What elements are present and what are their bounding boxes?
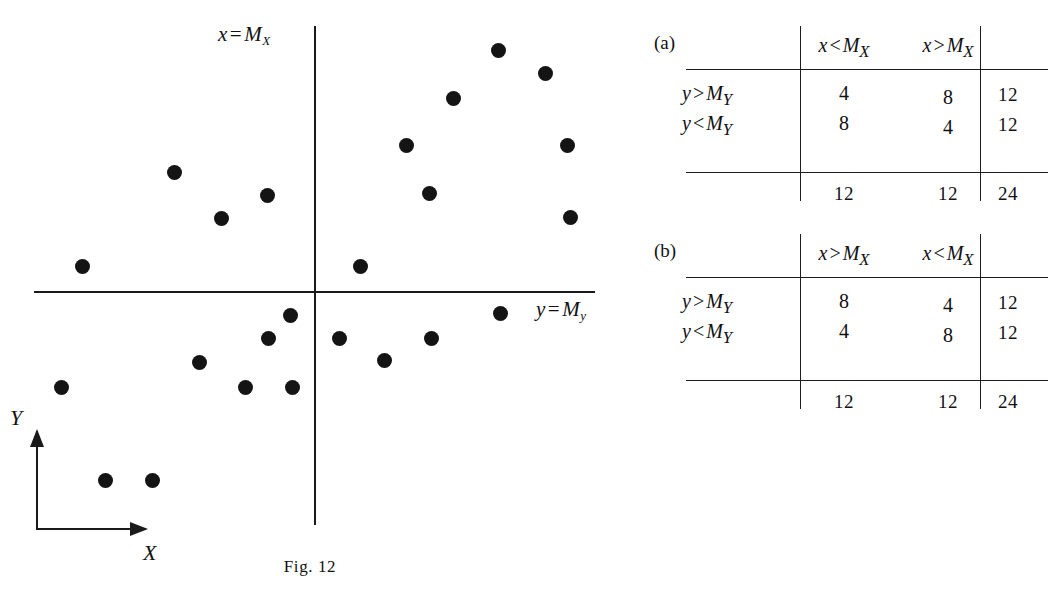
row-total: 12 [968, 114, 1048, 136]
scatter-point [145, 473, 160, 488]
y-median-sub: y [580, 308, 586, 323]
scatter-point [75, 259, 90, 274]
scatter-point [399, 138, 414, 153]
scatter-point [238, 380, 253, 395]
scatter-point [285, 380, 300, 395]
scatter-point [538, 66, 553, 81]
table-value: 8 [804, 290, 884, 313]
col-header-1-op: < [931, 242, 946, 264]
row-header-0-symbol: M [706, 290, 723, 312]
row-header: y>MY [682, 290, 802, 318]
scatter-point [332, 331, 347, 346]
scatter-point [261, 331, 276, 346]
x-median-symbol: M [244, 22, 262, 46]
row-header-0-symbol: M [706, 82, 723, 104]
scatter-point [446, 91, 461, 106]
scatter-point [192, 355, 207, 370]
table-value: 4 [804, 82, 884, 105]
col-header-0-symbol: M [843, 242, 860, 264]
grand-total: 24 [968, 391, 1048, 413]
horizontal-median-line [34, 291, 595, 293]
col-header-0-sub: X [859, 250, 869, 269]
row-header-0-sub: Y [723, 90, 732, 109]
scatter-figure-panel: x=MX y=My Y X Fig. 12 [0, 0, 620, 600]
row-header-1-sub: Y [723, 120, 732, 139]
scatter-point [353, 259, 368, 274]
scatter-point [422, 186, 437, 201]
row-header-1-symbol: M [706, 320, 723, 342]
column-header: x<MX [784, 34, 904, 62]
grand-total: 24 [968, 183, 1048, 205]
table-value: 8 [804, 112, 884, 135]
x-median-var: x [218, 22, 228, 46]
scatter-point [54, 380, 69, 395]
col-header-0-op: < [827, 34, 842, 56]
row-header-0-op: > [691, 290, 706, 312]
y-median-var: y [536, 297, 546, 321]
row-header: y<MY [682, 320, 802, 348]
scatter-point [563, 210, 578, 225]
column-total: 12 [804, 391, 884, 413]
row-header-1-var: y [682, 112, 691, 134]
scatter-point [167, 165, 182, 180]
col-header-0-symbol: M [843, 34, 860, 56]
y-median-symbol: M [562, 297, 580, 321]
table-top-rule [686, 69, 1048, 70]
row-total: 12 [968, 84, 1048, 106]
y-median-label: y=My [536, 297, 586, 324]
row-header-0-op: > [691, 82, 706, 104]
col-header-1-op: > [931, 34, 946, 56]
scatter-point [214, 211, 229, 226]
column-header: x>MX [784, 242, 904, 270]
row-header-0-sub: Y [723, 298, 732, 317]
row-header-0-var: y [682, 82, 691, 104]
scatter-point [493, 306, 508, 321]
scatter-point [283, 308, 298, 323]
row-header-1-op: < [691, 112, 706, 134]
vertical-median-line [314, 26, 316, 525]
col-header-0-op: > [827, 242, 842, 264]
column-header: x<MX [888, 242, 1008, 270]
scatter-point [560, 138, 575, 153]
x-median-sub: X [262, 33, 270, 48]
row-total: 12 [968, 322, 1048, 344]
row-header-1-var: y [682, 320, 691, 342]
y-median-op: = [546, 297, 562, 321]
col-header-1-sub: X [963, 42, 973, 61]
row-header-1-op: < [691, 320, 706, 342]
x-median-op: = [228, 22, 244, 46]
contingency-table-a: (a)x<MXx>MXy>MY4812y<MY8412121224 [648, 20, 1048, 215]
col-header-0-sub: X [859, 42, 869, 61]
table-bottom-rule [686, 172, 1048, 173]
row-header: y>MY [682, 82, 802, 110]
row-header-1-symbol: M [706, 112, 723, 134]
contingency-table-b: (b)x>MXx<MXy>MY8412y<MY4812121224 [648, 228, 1048, 423]
x-median-label: x=MX [218, 22, 270, 49]
scatter-point [98, 473, 113, 488]
figure-caption: Fig. 12 [0, 557, 620, 577]
row-header-1-sub: Y [723, 328, 732, 347]
col-header-1-symbol: M [947, 242, 964, 264]
column-header: x>MX [888, 34, 1008, 62]
orientation-y-label: Y [10, 405, 22, 431]
row-header-0-var: y [682, 290, 691, 312]
row-total: 12 [968, 292, 1048, 314]
row-header: y<MY [682, 112, 802, 140]
table-top-rule [686, 277, 1048, 278]
column-total: 12 [804, 183, 884, 205]
table-tag: (a) [654, 32, 675, 54]
scatter-point [377, 353, 392, 368]
table-tag: (b) [654, 240, 676, 262]
scatter-point [491, 43, 506, 58]
col-header-1-symbol: M [947, 34, 964, 56]
scatter-point [260, 188, 275, 203]
table-bottom-rule [686, 380, 1048, 381]
col-header-1-sub: X [963, 250, 973, 269]
table-value: 4 [804, 320, 884, 343]
scatter-point [424, 331, 439, 346]
